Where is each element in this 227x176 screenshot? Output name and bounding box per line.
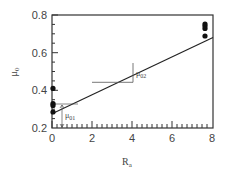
data-point [50,103,55,108]
x-axis-label: Ra [122,156,133,169]
x-ticks [52,121,207,128]
fit-line [52,38,213,114]
intercept-annotation: μ01 [65,111,75,121]
data-point [202,33,207,38]
data-point [202,26,207,31]
y-axis-label: μ0 [8,67,21,76]
slope-triangle [92,63,133,82]
y-tick-label: 0.2 [32,122,47,134]
y-tick-label: 0.6 [32,47,47,59]
x-tick-label: 4 [129,132,135,144]
x-tick-label: 2 [89,132,95,144]
data-point [50,86,55,91]
slope-annotation: μ02 [136,69,146,79]
y-tick-label: 0.8 [32,9,47,21]
y-tick-label: 0.4 [32,84,47,96]
x-tick-label: 6 [169,132,175,144]
plot-frame [52,15,213,128]
chart: 0 2 4 6 8 0.2 0.4 0.6 0.8 Ra μ0 μ02 μ01 [0,0,227,176]
x-tick-label: 8 [209,132,215,144]
data-points [50,21,207,114]
x-tick-label: 0 [49,132,55,144]
svg-text:μ0: μ0 [8,67,21,76]
data-point [50,109,55,114]
